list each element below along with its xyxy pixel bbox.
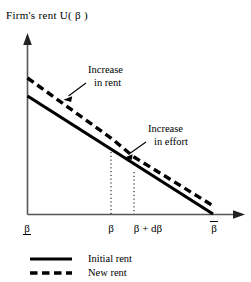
y-axis (23, 33, 32, 215)
annotation-increase-in-effort: Increase in effort (148, 122, 188, 148)
annotation-increase-in-rent-line1: Increase (88, 64, 123, 75)
chart-canvas (0, 0, 251, 282)
annotation-increase-in-rent-line2: in rent (88, 76, 123, 89)
initial-rent-curve (28, 96, 214, 214)
annotation-increase-in-effort-line2: in effort (148, 135, 188, 148)
increase-in-rent-arrow (64, 83, 87, 102)
x-tick-label-beta-plus-dbeta: β + dβ (124, 222, 172, 234)
x-tick-label-beta-lower-bound: β (16, 222, 38, 234)
annotation-increase-in-rent: Increase in rent (88, 63, 123, 89)
figure-container: Firm's rent U( β ) (0, 0, 251, 282)
legend-label-initial-rent: Initial rent (88, 253, 132, 264)
annotation-increase-in-effort-line1: Increase (148, 123, 183, 134)
legend-label-new-rent: New rent (88, 267, 127, 278)
x-tick-label-beta-upper-bound: β (203, 222, 225, 234)
x-tick-label-beta: β (100, 222, 122, 234)
